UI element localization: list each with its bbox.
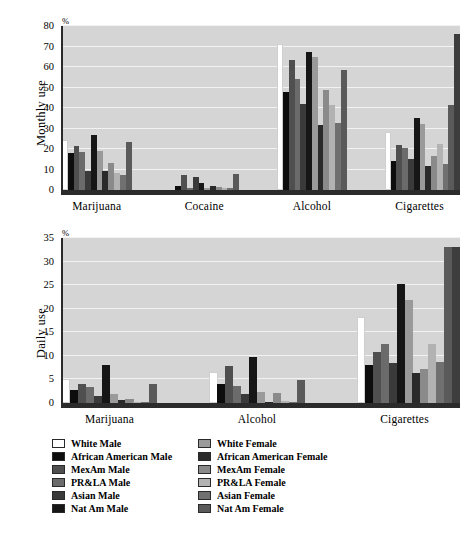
legend-swatch-icon	[198, 465, 211, 474]
x-axis-baseline	[62, 190, 460, 195]
y-tick-label: 0	[49, 398, 54, 409]
legend-item: Asian Male	[52, 489, 194, 502]
bar	[233, 386, 241, 403]
bar	[78, 384, 86, 403]
bar	[365, 365, 373, 403]
legend-item: White Male	[52, 437, 194, 450]
bar	[110, 394, 118, 403]
gridline	[62, 107, 460, 108]
legend-swatch-icon	[198, 452, 211, 461]
legend-swatch-icon	[52, 478, 65, 487]
bar	[94, 396, 102, 403]
bar	[233, 174, 239, 190]
y-tick-label: 0	[49, 185, 54, 196]
bar	[420, 369, 428, 403]
y-tick-label: 20	[44, 144, 55, 155]
bar	[102, 365, 110, 403]
legend-label: MexAm Female	[217, 464, 285, 475]
monthly-use-chart: Monthly use % 01020304050607080 Marijuan…	[0, 10, 472, 220]
y-tick-label: 10	[44, 164, 55, 175]
y-axis-line	[61, 238, 63, 408]
bar	[62, 379, 70, 403]
legend-label: Asian Male	[71, 490, 120, 501]
bar	[149, 384, 157, 403]
legend-swatch-icon	[52, 452, 65, 461]
x-axis-baseline	[62, 403, 460, 408]
x-category-label: Cocaine	[154, 200, 254, 212]
legend-item: Nat Am Male	[52, 502, 194, 515]
x-category-label: Alcohol	[262, 200, 362, 212]
legend-item: Nat Am Female	[198, 502, 340, 515]
legend-swatch-icon	[198, 504, 211, 513]
legend-label: Nat Am Male	[71, 503, 128, 514]
y-tick-label: 40	[44, 103, 55, 114]
gridline	[62, 261, 460, 262]
bar-overflow	[454, 34, 460, 190]
legend-label: Asian Female	[217, 490, 275, 501]
y-axis-monthly: 01020304050607080	[28, 10, 58, 190]
bar	[225, 366, 233, 403]
legend-swatch-icon	[198, 491, 211, 500]
bar	[217, 384, 225, 403]
plot-area-daily	[62, 238, 460, 403]
bar	[273, 393, 281, 403]
legend-swatch-icon	[198, 478, 211, 487]
y-axis-daily: 05101520253035	[28, 228, 58, 403]
legend-label: White Male	[71, 438, 121, 449]
bar	[70, 390, 78, 403]
legend-label: PR&LA Male	[71, 477, 130, 488]
legend-item: Asian Female	[198, 489, 340, 502]
legend-swatch-icon	[52, 465, 65, 474]
x-category-label: Marijuana	[47, 200, 147, 212]
y-tick-label: 10	[44, 351, 55, 362]
bar	[373, 352, 381, 403]
legend-label: African American Male	[71, 451, 172, 462]
y-tick-label: 30	[44, 123, 55, 134]
bar	[249, 357, 257, 403]
gridline	[62, 128, 460, 129]
y-tick-label: 30	[44, 256, 55, 267]
gridline	[62, 46, 460, 47]
y-tick-label: 50	[44, 82, 55, 93]
bar	[405, 300, 413, 403]
bar	[412, 373, 420, 403]
legend-item: MexAm Male	[52, 463, 194, 476]
legend-item: PR&LA Male	[52, 476, 194, 489]
legend: White MaleWhite FemaleAfrican American M…	[52, 437, 382, 515]
bar	[389, 363, 397, 403]
bar	[241, 394, 249, 403]
gridline	[62, 66, 460, 67]
y-tick-label: 80	[44, 21, 55, 32]
bar	[397, 284, 405, 403]
legend-item: PR&LA Female	[198, 476, 340, 489]
bar	[357, 317, 365, 403]
x-category-label: Marijuana	[60, 413, 160, 425]
y-tick-label: 15	[44, 327, 55, 338]
legend-swatch-icon	[52, 439, 65, 448]
legend-label: PR&LA Female	[217, 477, 286, 488]
legend-swatch-icon	[52, 491, 65, 500]
bar-overflow	[452, 247, 460, 404]
gridline	[62, 25, 460, 26]
legend-label: Nat Am Female	[217, 503, 284, 514]
x-category-label: Cigarettes	[370, 200, 470, 212]
daily-use-chart: Daily use % 05101520253035 MarijuanaAlco…	[0, 228, 472, 428]
bar	[428, 344, 436, 403]
gridline	[62, 237, 460, 238]
y-tick-label: 60	[44, 62, 55, 73]
y-tick-label: 70	[44, 41, 55, 52]
bar	[257, 392, 265, 403]
chart-figure: Monthly use % 01020304050607080 Marijuan…	[0, 0, 472, 538]
bar	[126, 142, 132, 190]
plot-area-monthly	[62, 26, 460, 190]
bar	[86, 387, 94, 403]
bar	[341, 70, 347, 190]
y-tick-label: 20	[44, 303, 55, 314]
bar	[297, 380, 305, 403]
legend-item: African American Female	[198, 450, 340, 463]
legend-label: African American Female	[217, 451, 328, 462]
y-axis-line	[61, 26, 63, 195]
legend-swatch-icon	[52, 504, 65, 513]
bar	[436, 362, 444, 403]
bar	[381, 344, 389, 403]
